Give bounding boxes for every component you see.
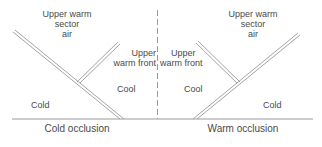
right-upper-air-line-3: air — [228, 29, 277, 39]
left-upper-air-label: Upper warm sector air — [42, 9, 91, 39]
left-upper-front-line-2: warm front — [110, 58, 156, 68]
right-upper-air-line-1: Upper warm — [228, 9, 277, 19]
right-warm-front-surface — [193, 33, 300, 119]
cold-occlusion-caption: Cold occlusion — [44, 123, 109, 135]
right-cold-label: Cold — [263, 100, 282, 110]
left-upper-warm-front-label: Upper warm front — [110, 48, 156, 68]
left-upper-air-line-2: sector — [42, 19, 91, 29]
right-upper-warm-front-label: Upper warm front — [160, 48, 203, 68]
right-cool-label: Cool — [184, 84, 203, 94]
left-cold-label: Cold — [31, 100, 50, 110]
right-upper-air-label: Upper warm sector air — [228, 9, 277, 39]
left-upper-front-line-1: Upper — [110, 48, 156, 58]
right-upper-front-line-1: Upper — [160, 48, 203, 58]
left-cool-label: Cool — [117, 84, 136, 94]
left-cold-front-surface — [13, 30, 124, 119]
left-upper-air-line-3: air — [42, 29, 91, 39]
right-upper-front-line-2: warm front — [160, 58, 203, 68]
warm-occlusion-caption: Warm occlusion — [208, 123, 279, 135]
left-upper-air-line-1: Upper warm — [42, 9, 91, 19]
right-upper-air-line-2: sector — [228, 19, 277, 29]
